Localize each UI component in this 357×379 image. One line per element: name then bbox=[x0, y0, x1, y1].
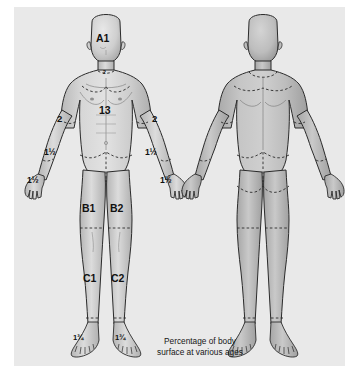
nipple-right bbox=[118, 97, 122, 100]
label-neck: 2 bbox=[103, 70, 106, 75]
arm-right-posterior bbox=[297, 110, 331, 180]
label-upper-arm-left: 2 bbox=[57, 114, 62, 124]
leg-left-anterior bbox=[80, 170, 105, 324]
label-forearm-right: 1½ bbox=[145, 148, 157, 157]
leg-right-anterior bbox=[107, 170, 132, 324]
leg-right-posterior bbox=[264, 170, 289, 324]
label-hand-left: 1½ bbox=[27, 176, 39, 185]
label-forearm-left: 1½ bbox=[44, 148, 56, 157]
label-trunk: 13 bbox=[99, 105, 110, 116]
arm-left-posterior bbox=[195, 110, 229, 180]
body-diagram bbox=[0, 0, 357, 379]
anterior-figure bbox=[25, 15, 187, 358]
leg-left-posterior bbox=[237, 170, 262, 324]
ear-right-icon bbox=[121, 42, 125, 50]
label-upper-arm-right: 2 bbox=[152, 114, 157, 124]
label-lower-leg-right: C2 bbox=[111, 273, 124, 284]
label-thigh-right: B2 bbox=[110, 203, 123, 214]
arm-left-anterior bbox=[38, 110, 72, 180]
caption: Percentage of body surface at various ag… bbox=[140, 336, 260, 357]
label-hand-right: 1½ bbox=[160, 176, 172, 185]
ear-left-icon bbox=[244, 42, 248, 50]
label-head: A1 bbox=[96, 33, 109, 44]
posterior-figure bbox=[182, 15, 344, 358]
label-thigh-left: B1 bbox=[82, 203, 95, 214]
label-foot-left: 1¾ bbox=[73, 334, 83, 342]
ear-right-icon bbox=[278, 42, 282, 50]
hand-right-posterior bbox=[325, 174, 344, 199]
head-posterior bbox=[248, 15, 278, 64]
label-foot-right: 1¾ bbox=[115, 334, 125, 342]
hand-left-posterior bbox=[182, 174, 201, 199]
nipple-left bbox=[90, 97, 94, 100]
ear-left-icon bbox=[87, 42, 91, 50]
illustration-root: A1 2 13 2 2 1½ 1½ 1½ 1½ B1 B2 C1 C2 1¾ 1… bbox=[0, 0, 357, 379]
label-lower-leg-left: C1 bbox=[83, 273, 96, 284]
